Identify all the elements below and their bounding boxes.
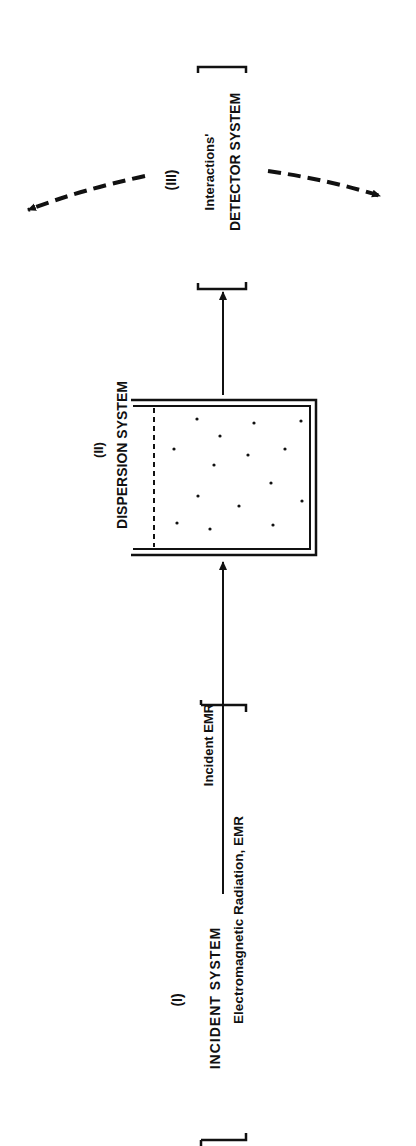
scatter-arrow-right [268,171,380,196]
detector-subtitle: Interactions' [202,134,217,211]
container-inner-wall [133,406,310,549]
incident-subtitle: Electromagnetic Radiation, EMR [231,816,246,1024]
detector-system: (III) Interactions' DETECTOR SYSTEM [28,67,380,289]
dispersion-numeral: (II) [91,442,106,458]
detector-numeral: (III) [163,170,179,191]
container-outer-wall [131,400,316,555]
dispersion-title: DISPERSION SYSTEM [114,381,130,529]
incident-bracket-bottom [201,1133,246,1146]
dispersion-system: (II) DISPERSION SYSTEM [91,381,316,555]
detector-title: DETECTOR SYSTEM [227,93,243,231]
detector-bracket-bottom [198,282,246,289]
incident-numeral: (I) [169,993,185,1006]
incident-emr-arrow: Incident EMR [201,562,223,894]
incident-emr-label: Incident EMR [201,703,216,786]
particles [172,417,303,530]
incident-title: INCIDENT SYSTEM [207,927,223,1070]
scatter-arrow-left [28,176,145,210]
detector-bracket-top [198,67,246,73]
emr-interaction-diagram: (I) INCIDENT SYSTEM Electromagnetic Radi… [0,0,416,1146]
